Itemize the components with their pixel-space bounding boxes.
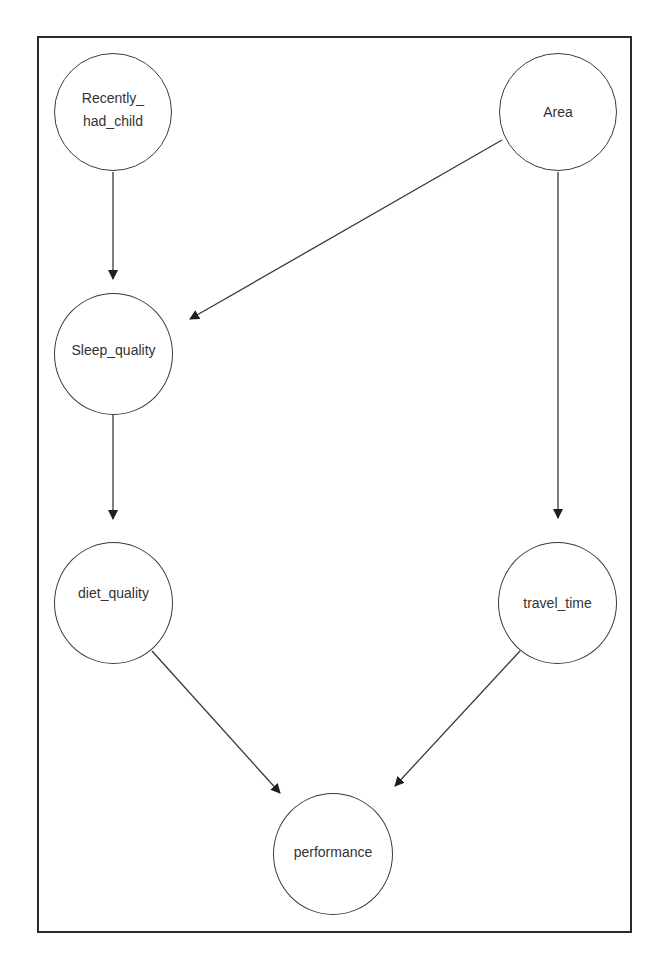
node-sleep-quality: Sleep_quality [54,293,173,415]
node-label: travel_time [523,592,591,615]
node-diet-quality: diet_quality [54,542,173,664]
node-label: Area [543,101,573,124]
edge-travel-time-to-performance [395,651,520,786]
edge-diet-quality-to-performance [152,651,280,793]
node-label: Sleep_quality [71,339,155,362]
node-label: performance [294,841,373,864]
edge-area-to-sleep-quality [190,140,502,319]
node-performance: performance [273,793,393,915]
node-label: Recently_ had_child [82,87,144,133]
node-recently-had-child: Recently_ had_child [54,53,172,171]
node-travel-time: travel_time [498,542,617,664]
node-area: Area [499,53,617,171]
node-label: diet_quality [78,582,149,605]
bayesian-network-diagram: Recently_ had_child Area Sleep_quality d… [0,0,659,962]
